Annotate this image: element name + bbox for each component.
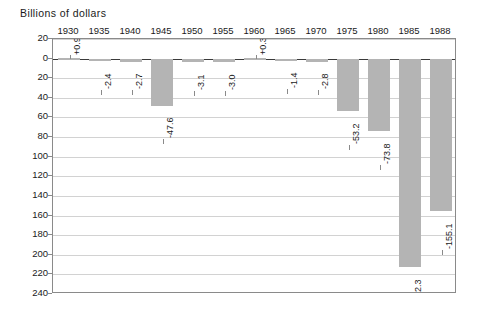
x-axis-tick-label: 1940 <box>119 26 140 36</box>
x-axis-tick-label: 1930 <box>57 26 78 36</box>
x-axis-tick-label: 1988 <box>429 26 450 36</box>
x-axis-tick-label: 1985 <box>398 26 419 36</box>
x-axis-tick-label: 1950 <box>181 26 202 36</box>
x-axis-tick-label: 1975 <box>336 26 357 36</box>
x-axis-labels: 1930193519401945195019551960196519701975… <box>0 0 478 319</box>
x-axis-tick-label: 1945 <box>150 26 171 36</box>
x-axis-tick-label: 1960 <box>243 26 264 36</box>
x-axis-tick-label: 1970 <box>305 26 326 36</box>
x-axis-tick-label: 1965 <box>274 26 295 36</box>
x-axis-tick-label: 1935 <box>88 26 109 36</box>
deficit-bar-chart: Billions of dollars 20020406080100120140… <box>0 0 478 319</box>
x-axis-tick-label: 1955 <box>212 26 233 36</box>
x-axis-tick-label: 1980 <box>367 26 388 36</box>
